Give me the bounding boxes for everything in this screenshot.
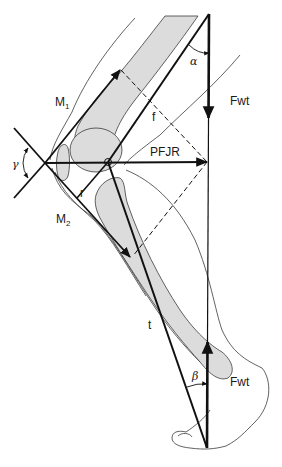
label-pfjr: PFJR (150, 145, 180, 159)
label-r: r (80, 186, 84, 200)
label-alpha: α (190, 55, 198, 68)
tibia-bone (95, 178, 232, 379)
femoral-condyle (70, 128, 122, 172)
alpha-arc (189, 45, 209, 53)
beta-arc (187, 384, 207, 387)
label-beta: β (191, 370, 198, 383)
fwt-bottom-arrow (207, 342, 208, 448)
toe-contour (178, 433, 192, 437)
pfjr-arrow (45, 162, 207, 163)
label-fwt-top: Fwt (230, 94, 250, 108)
label-m2: M2 (56, 212, 71, 228)
tibia-axis-line (108, 162, 207, 448)
label-gamma: γ (12, 158, 19, 171)
gamma-line-1 (14, 128, 45, 163)
fwt-top-arrow (209, 14, 210, 118)
foot-contour (172, 368, 269, 449)
knee-force-diagram: M1 M2 f r t PFJR Fwt Fwt α β γ (0, 0, 282, 467)
label-f: f (152, 110, 156, 124)
label-fwt-bottom: Fwt (230, 375, 250, 389)
label-t: t (148, 318, 152, 332)
gamma-line-2 (14, 163, 45, 198)
gamma-arc (23, 148, 28, 178)
label-m1: M1 (55, 95, 70, 111)
